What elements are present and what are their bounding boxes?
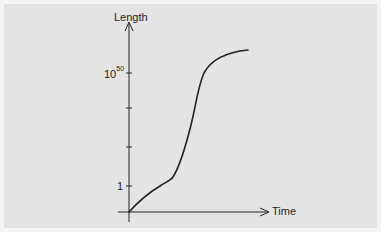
y-tick-label-exponent: 50 xyxy=(116,65,124,72)
x-axis-label: Time xyxy=(272,205,296,217)
y-tick-label-base: 10 xyxy=(104,68,116,80)
growth-curve xyxy=(129,50,248,212)
diagram-canvas xyxy=(0,0,381,232)
y-tick-label-1: 1 xyxy=(117,180,123,192)
y-axis-label: Length xyxy=(114,11,148,23)
y-tick-label-10-50: 1050 xyxy=(104,67,124,80)
